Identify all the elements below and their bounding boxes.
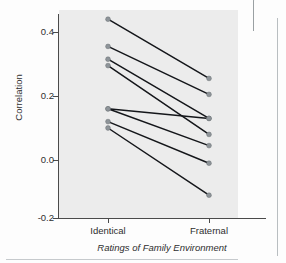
data-point-marker <box>106 106 111 111</box>
data-point-marker <box>106 17 111 22</box>
data-point-marker <box>207 193 212 198</box>
data-point-marker <box>106 119 111 124</box>
data-point-marker <box>106 63 111 68</box>
data-point-marker <box>207 143 212 148</box>
data-point-marker <box>207 116 212 121</box>
data-point-marker <box>106 44 111 49</box>
slope-line <box>108 19 209 78</box>
slope-line <box>108 66 209 135</box>
data-point-marker <box>106 126 111 131</box>
slope-line <box>108 128 209 195</box>
figure-container: 0.4 0.2 0.0 -0.2 Identical Fraternal Rat… <box>0 0 286 263</box>
data-point-marker <box>106 57 111 62</box>
data-series-layer <box>0 0 286 263</box>
data-point-marker <box>207 161 212 166</box>
data-point-marker <box>207 92 212 97</box>
slope-line <box>108 46 209 94</box>
data-point-marker <box>207 76 212 81</box>
data-point-marker <box>207 132 212 137</box>
